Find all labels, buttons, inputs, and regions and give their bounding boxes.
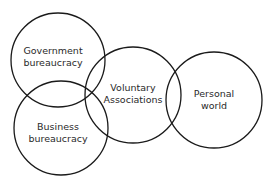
label-line-2: bureaucracy bbox=[28, 132, 87, 144]
label-line-2: world bbox=[194, 99, 234, 111]
voluntary-associations-label: Voluntary Associations bbox=[103, 82, 162, 105]
business-bureaucracy-label: Business bureaucracy bbox=[28, 121, 87, 144]
label-line-1: Voluntary bbox=[103, 82, 162, 94]
label-line-2: bureaucracy bbox=[23, 56, 82, 68]
label-line-1: Personal bbox=[194, 88, 234, 100]
personal-world-label: Personal world bbox=[194, 88, 234, 111]
label-line-1: Business bbox=[28, 121, 87, 133]
government-bureaucracy-label: Government bureaucracy bbox=[23, 45, 82, 68]
label-line-1: Government bbox=[23, 45, 82, 57]
label-line-2: Associations bbox=[103, 93, 162, 105]
